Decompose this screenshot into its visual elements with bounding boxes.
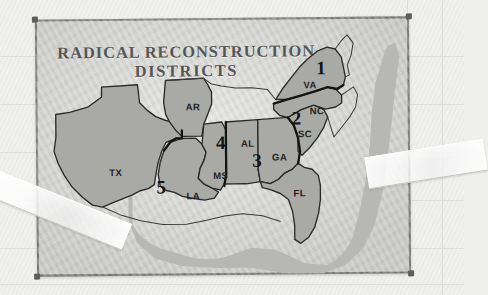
state-AL [224,120,261,184]
rule-line [0,284,464,285]
